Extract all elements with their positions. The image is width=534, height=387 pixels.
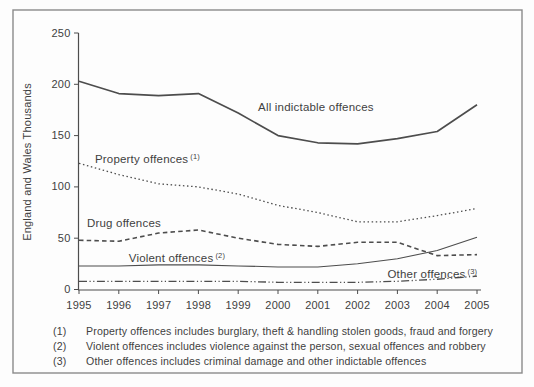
y-tick-label-200: 200 <box>52 78 71 90</box>
series-label-property-offences: Property offences(1) <box>95 152 200 165</box>
footnote-text: Property offences includes burglary, the… <box>86 324 515 339</box>
footnote-text: Violent offences includes violence again… <box>86 339 515 354</box>
y-tick-label-50: 50 <box>58 232 71 244</box>
footnote-3: (3)Other offences includes criminal dama… <box>53 354 515 369</box>
footnote-1: (1)Property offences includes burglary, … <box>53 324 515 339</box>
x-tick-label-2000: 2000 <box>265 299 290 311</box>
series-label-violent-offences: Violent offences(2) <box>129 251 226 264</box>
offences-figure: England and Wales Thousands 050100150200… <box>0 0 534 387</box>
footnote-number: (1) <box>53 324 86 339</box>
x-tick-label-2003: 2003 <box>385 299 410 311</box>
footnote-number: (3) <box>53 354 86 369</box>
x-tick-label-2002: 2002 <box>345 299 370 311</box>
y-tick-label-100: 100 <box>52 180 71 192</box>
x-tick-label-1996: 1996 <box>106 299 131 311</box>
footnote-2: (2)Violent offences includes violence ag… <box>53 339 515 354</box>
series-label-drug-offences: Drug offences <box>87 217 161 229</box>
x-tick-label-1999: 1999 <box>226 299 251 311</box>
series-label-other-offences: Other offences(3) <box>387 267 477 280</box>
figure-border <box>13 10 522 373</box>
x-tick-label-2004: 2004 <box>425 299 450 311</box>
series-line-property-offences <box>79 163 477 221</box>
footnote-number: (2) <box>53 339 86 354</box>
y-tick-label-0: 0 <box>64 283 70 295</box>
footnotes: (1)Property offences includes burglary, … <box>53 324 515 370</box>
x-tick-label-1998: 1998 <box>186 299 211 311</box>
y-tick-label-250: 250 <box>52 27 71 39</box>
y-axis-title: England and Wales Thousands <box>21 83 33 241</box>
footnote-text: Other offences includes criminal damage … <box>86 354 515 369</box>
series-label-all-indictable-offences: All indictable offences <box>258 101 374 113</box>
x-tick-label-1995: 1995 <box>66 299 91 311</box>
x-tick-label-2001: 2001 <box>305 299 330 311</box>
x-tick-label-2005: 2005 <box>464 299 489 311</box>
y-tick-label-150: 150 <box>52 129 71 141</box>
x-tick-label-1997: 1997 <box>146 299 171 311</box>
